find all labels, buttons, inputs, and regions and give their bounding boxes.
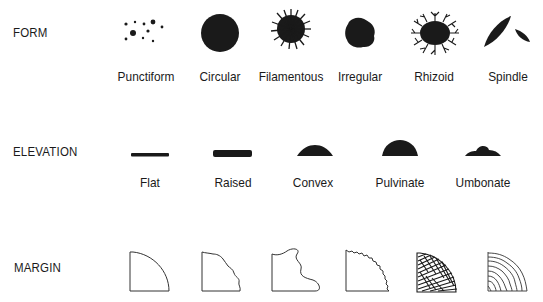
- entire-margin-icon: [129, 251, 171, 293]
- form-label-filamentous: Filamentous: [251, 69, 330, 84]
- rhizoid-icon: [410, 10, 460, 56]
- form-label-punctiform: Punctiform: [106, 69, 185, 84]
- elevation-label-raised: Raised: [193, 175, 272, 190]
- pulvinate-elevation-icon: [381, 139, 419, 157]
- form-label-circular: Circular: [180, 69, 259, 84]
- form-label-irregular: Irregular: [320, 69, 399, 84]
- curled-margin-icon: [487, 251, 529, 293]
- lobate-margin-icon: [271, 248, 323, 294]
- punctiform-icon: [120, 14, 170, 46]
- form-label-spindle: Spindle: [468, 69, 543, 84]
- row-label-form: FORM: [13, 26, 48, 40]
- circular-icon: [200, 13, 240, 53]
- umbonate-elevation-icon: [464, 145, 502, 157]
- form-label-rhizoid: Rhizoid: [394, 69, 473, 84]
- filamentous-icon: [270, 8, 312, 50]
- spindle-icon: [482, 15, 532, 49]
- elevation-label-convex: Convex: [273, 175, 352, 190]
- row-label-elevation: ELEVATION: [13, 145, 78, 159]
- raised-elevation-icon: [213, 150, 253, 158]
- elevation-label-umbonate: Umbonate: [443, 175, 522, 190]
- elevation-label-flat: Flat: [110, 175, 189, 190]
- convex-elevation-icon: [296, 144, 334, 157]
- serrate-margin-icon: [345, 248, 390, 294]
- elevation-label-pulvinate: Pulvinate: [360, 175, 439, 190]
- undulate-margin-icon: [201, 251, 243, 293]
- flat-elevation-icon: [131, 152, 171, 158]
- filamentous-margin-icon: [416, 252, 458, 294]
- irregular-icon: [343, 16, 377, 50]
- row-label-margin: MARGIN: [14, 261, 61, 275]
